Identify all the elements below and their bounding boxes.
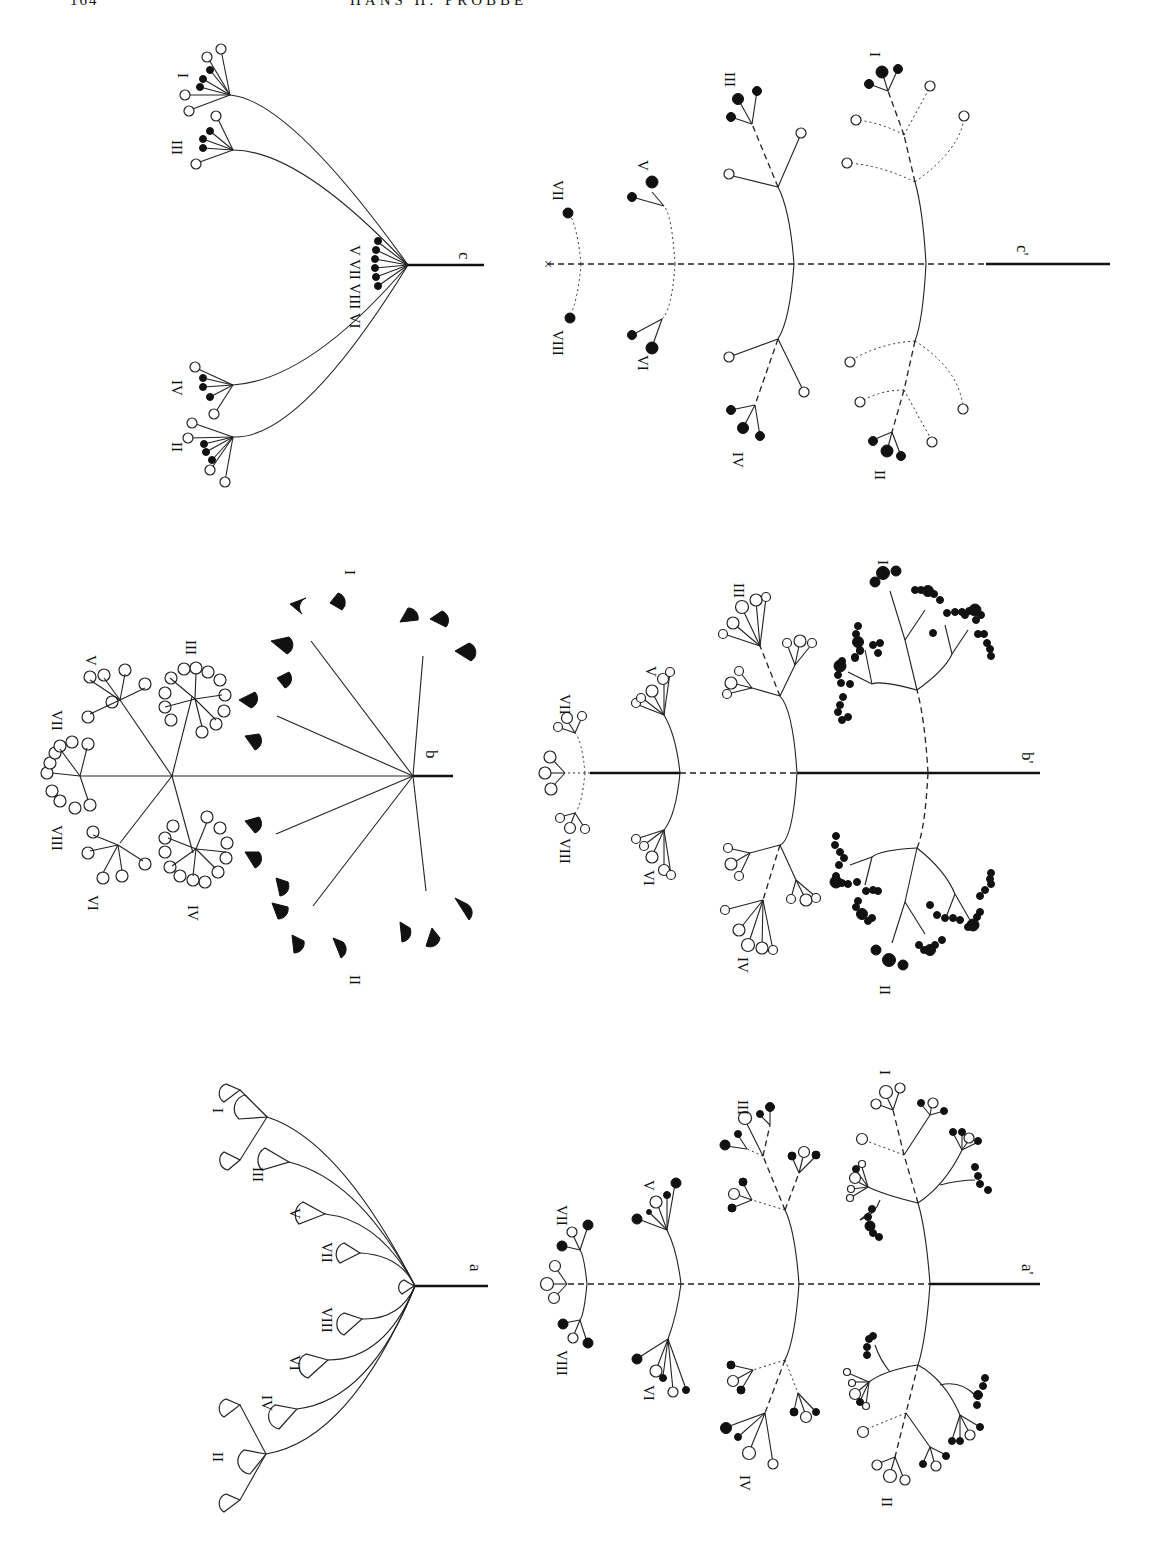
terminal-marker: × [544,256,552,272]
panel-label-c-prime: c' [1013,245,1032,256]
ray-label: VII [557,694,573,715]
umbellet-VI [82,826,151,884]
ray-label: II [872,470,888,480]
panel-label-c: c [455,252,474,260]
panel-b: I III V VII VIII VI IV II b [41,570,476,985]
central-flowers [372,238,409,290]
ray-label: IV [169,380,185,396]
ray-label: VI [641,870,657,886]
ray-label: III [250,1167,266,1182]
flower-cups [219,1084,414,1512]
panel-label-b-prime: b' [1018,752,1037,764]
ray-label: III [731,583,747,598]
ray-label: VII [554,1205,570,1226]
ray-label: V [641,1180,657,1191]
ray-label: IV [737,1475,753,1491]
ray-label: V [83,655,99,666]
ray-label: II [877,985,893,995]
ray-label: VIII [554,1350,570,1376]
ray-label: IV [185,905,201,921]
ray-label: III [183,640,199,655]
ray-label: II [347,975,363,985]
ray-label: VII [319,1242,335,1263]
umbellet-I [180,44,230,116]
panel-label-a-prime: a' [1018,1264,1037,1275]
ray-label: VII [550,180,566,201]
filled-flowers-II [830,833,995,971]
ray-label: IV [735,957,751,973]
ray-label: III [722,72,738,87]
ray-label: VII [49,710,65,731]
ray-label: VIII [49,825,65,851]
figure: I III V VII VIII VI IV II c [0,0,1169,1560]
ray-label: III [169,140,185,155]
ray-label: I [867,52,883,57]
umbellet-IV [159,811,233,888]
ray-label: V [287,1208,303,1219]
ray-label: VIII [557,838,573,864]
ray-label: I [210,1108,226,1113]
ray-label: I [877,1070,893,1075]
umbellet-II [183,418,233,487]
cup-cluster-I [239,593,476,750]
ray-label: III [735,1100,751,1115]
ray-label: VIII [319,1307,335,1333]
ray-label: VI [641,1385,657,1401]
ray-label: II [169,442,185,452]
ray-label: VI [287,1355,303,1371]
ray-label: V [643,666,659,677]
umbellet-VII-VIII-top [41,736,96,814]
panel-a: I III V VII VIII VI IV II a [210,1084,488,1512]
ray-label: VI [635,355,651,371]
ray-label: II [210,1452,226,1462]
ray-label: II [879,1497,895,1507]
ray-label: IV [730,452,746,468]
ray-label: V VII VIII VI [347,245,363,328]
panel-b-prime: VII VIII V VI III IV I II b' [539,560,1040,995]
ray-label: I [175,73,191,78]
ray-label: VI [85,895,101,911]
panel-label-a: a [466,1264,485,1272]
cup-cluster-II [245,817,472,958]
ray-label: VIII [550,330,566,356]
umbellet-III [159,662,231,738]
umbellet-V [82,664,151,723]
filled-flowers-I [834,566,995,724]
umbellet-III [191,111,233,169]
panel-c: I III V VII VIII VI IV II c [169,44,484,487]
umbellet-IV [190,362,233,419]
ray-label: IV [259,1395,275,1411]
panel-c-prime: × [544,52,1110,480]
ray-label: I [875,560,891,565]
ray-label: V [635,160,651,171]
panel-a-prime: VII VIII V VI III IV I II a' [541,1070,1041,1507]
ray-label: I [342,570,358,575]
panel-label-b: b [422,750,441,759]
